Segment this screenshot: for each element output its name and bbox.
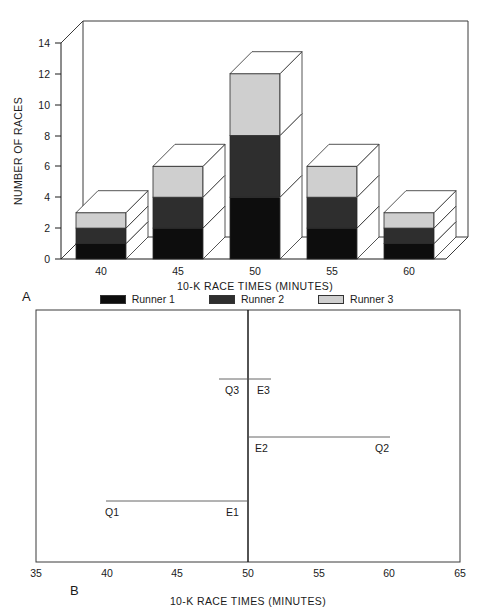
bar-segment-runner1 (307, 228, 357, 259)
bar-segment-runner2 (384, 228, 434, 244)
y-axis: 14 12 10 8 6 (38, 37, 61, 265)
point-label-e2: E2 (255, 442, 268, 454)
figure-container: 14 12 10 8 6 (0, 0, 493, 611)
point-label-q3: Q3 (225, 384, 239, 396)
y-tick-label: 2 (44, 222, 50, 234)
point-label-q1: Q1 (105, 506, 119, 518)
y-tick-10: 10 (38, 99, 61, 111)
y-tick-label: 4 (44, 191, 50, 203)
bar-segment-runner1 (76, 244, 126, 259)
bar-group-40[interactable] (76, 191, 148, 259)
x-tick-label: 60 (383, 567, 395, 579)
panel-b-svg: Q3 E3 E2 Q2 Q1 E1 35 40 45 50 55 (0, 300, 493, 611)
x-tick-label: 50 (242, 567, 254, 579)
panel-b-interval-chart: Q3 E3 E2 Q2 Q1 E1 35 40 45 50 55 (0, 300, 493, 611)
bar-segment-runner3 (230, 74, 280, 136)
y-tick-12: 12 (38, 68, 61, 80)
y-tick-label: 10 (38, 99, 50, 111)
segment-q3-e3[interactable]: Q3 E3 (219, 379, 271, 396)
bar-segment-runner3 (153, 166, 203, 197)
x-tick-label: 55 (313, 567, 325, 579)
bar-segment-runner3 (307, 166, 357, 197)
y-tick-label: 0 (44, 253, 50, 265)
panel-b-x-axis: 35 40 45 50 55 60 65 (30, 567, 466, 579)
x-tick-label: 40 (95, 265, 107, 277)
x-axis-title: 10-K RACE TIMES (MINUTES) (177, 280, 333, 292)
y-tick-label: 8 (44, 130, 50, 142)
segment-q1-e1[interactable]: Q1 E1 (105, 501, 248, 518)
point-label-e1: E1 (226, 506, 239, 518)
x-tick-label: 55 (326, 265, 338, 277)
bar-segment-runner2 (153, 197, 203, 228)
bar-group-55[interactable] (307, 144, 379, 259)
bar-group-50[interactable] (230, 52, 302, 259)
segment-e2-q2[interactable]: E2 Q2 (248, 437, 390, 454)
bar-segment-runner1 (230, 197, 280, 259)
y-tick-label: 14 (38, 37, 50, 49)
point-label-q2: Q2 (375, 442, 389, 454)
panel-a-svg: 14 12 10 8 6 (0, 0, 493, 300)
x-tick-label: 45 (172, 265, 184, 277)
x-tick-label: 35 (30, 567, 42, 579)
x-tick-label: 50 (249, 265, 261, 277)
x-tick-label: 40 (101, 567, 113, 579)
bar-segment-runner1 (384, 244, 434, 259)
y-tick-14: 14 (38, 37, 61, 49)
bar-segment-runner2 (230, 136, 280, 198)
x-tick-label: 65 (454, 567, 466, 579)
y-tick-label: 12 (38, 68, 50, 80)
y-tick-label: 6 (44, 160, 50, 172)
y-tick-6: 6 (44, 160, 61, 172)
point-label-e3: E3 (257, 384, 270, 396)
bar-segment-runner3 (384, 213, 434, 228)
y-tick-4: 4 (44, 191, 61, 203)
panel-b-x-axis-title: 10-K RACE TIMES (MINUTES) (170, 595, 326, 607)
x-tick-label: 45 (171, 567, 183, 579)
bar-segment-runner1 (153, 228, 203, 259)
panel-a-bar-chart: 14 12 10 8 6 (0, 0, 493, 300)
panel-b-letter: B (70, 583, 79, 598)
bar-segment-runner2 (307, 197, 357, 228)
bar-segment-runner3 (76, 213, 126, 228)
bar-group-45[interactable] (153, 144, 225, 259)
x-axis: 40 45 50 55 60 (95, 265, 415, 277)
bar-group-60[interactable] (384, 191, 456, 259)
y-axis-title: NUMBER OF RACES (12, 97, 24, 205)
x-tick-label: 60 (403, 265, 415, 277)
y-tick-0: 0 (44, 253, 61, 265)
y-tick-8: 8 (44, 130, 61, 142)
y-tick-2: 2 (44, 222, 61, 234)
bar-segment-runner2 (76, 228, 126, 244)
